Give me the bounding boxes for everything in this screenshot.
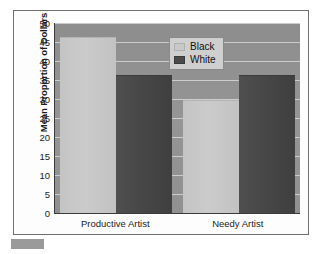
- chart-figure: Mean Proportion of Dollars 0510152025303…: [0, 0, 323, 254]
- legend-label-white: White: [190, 54, 216, 65]
- y-axis-tick-label: 35: [28, 75, 50, 86]
- gridline: [55, 23, 300, 24]
- bar-black-productive-artist: [60, 37, 116, 213]
- legend-swatch-white-icon: [174, 56, 185, 64]
- legend-item-black: Black: [174, 40, 216, 53]
- x-axis-tick-label: Productive Artist: [81, 218, 150, 229]
- legend-swatch-black-icon: [174, 43, 185, 51]
- x-axis-tick-label: Needy Artist: [212, 218, 263, 229]
- y-axis-tick-label: 50: [28, 18, 50, 29]
- y-axis-tick-label: 0: [28, 208, 50, 219]
- chart-frame: Mean Proportion of Dollars 0510152025303…: [13, 10, 309, 235]
- x-axis-tick-labels: Productive ArtistNeedy Artist: [54, 218, 299, 234]
- legend-item-white: White: [174, 53, 216, 66]
- y-axis-tick-label: 10: [28, 170, 50, 181]
- y-axis-tick-labels: 05101520253035404550: [28, 23, 50, 213]
- bar-black-needy-artist: [183, 100, 239, 213]
- y-axis-tick-label: 25: [28, 113, 50, 124]
- chart-legend: Black White: [169, 37, 224, 70]
- bar-white-productive-artist: [116, 75, 172, 213]
- y-axis-tick-label: 30: [28, 94, 50, 105]
- y-axis-tick-label: 15: [28, 151, 50, 162]
- y-axis-tick-label: 20: [28, 132, 50, 143]
- bottom-artifact-block: [11, 239, 44, 249]
- legend-label-black: Black: [190, 41, 214, 52]
- y-axis-tick-label: 40: [28, 56, 50, 67]
- y-axis-tick-label: 45: [28, 37, 50, 48]
- bar-white-needy-artist: [239, 75, 295, 213]
- y-axis-tick-label: 5: [28, 189, 50, 200]
